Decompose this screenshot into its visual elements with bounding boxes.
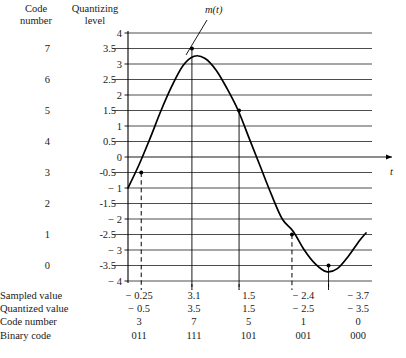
table-spacer [386, 329, 406, 342]
table-cell: 3.5 [167, 302, 222, 315]
table-cell: 000 [331, 329, 386, 342]
table: Sampled value− 0.253.11.5− 2.4− 3.7Quant… [0, 289, 406, 342]
table-cell: 3.1 [167, 289, 222, 302]
gridlines [112, 33, 392, 281]
y-axis-tick-label: 3 [117, 59, 122, 70]
y-axis-tick-label: 4 [117, 28, 123, 39]
table-spacer [386, 302, 406, 315]
table-cell: 111 [167, 329, 222, 342]
table-cell: 011 [112, 329, 167, 342]
table-row: Quantized value− 0.53.51.5− 2.5− 3.5 [0, 302, 406, 315]
sample-point [290, 233, 294, 237]
table-spacer [386, 315, 406, 328]
table-row-label: Quantized value [0, 302, 112, 315]
sample-point [327, 264, 331, 268]
table-cell: 5 [221, 315, 276, 328]
y-axis-tick-label: 1 [117, 121, 122, 132]
time-axis-label: t [390, 166, 393, 177]
y-axis-tick-label: − 1 [108, 183, 122, 194]
sample-point [139, 171, 143, 175]
table-cell: − 2.5 [276, 302, 331, 315]
table-row: Code number37510 [0, 315, 406, 328]
curve-label-pointer [186, 20, 207, 55]
table-cell: 3 [112, 315, 167, 328]
sample-lines [141, 49, 328, 291]
figure-container: Code number Quantizing level 73.562.551.… [0, 0, 406, 358]
table-cell: 1.5 [221, 302, 276, 315]
table-cell: − 0.5 [112, 302, 167, 315]
y-axis-tick-label: 0 [117, 152, 122, 163]
table-cell: 1 [276, 315, 331, 328]
y-axis-tick-label: 2 [117, 90, 122, 101]
table-row: Sampled value− 0.253.11.5− 2.4− 3.7 [0, 289, 406, 302]
table-row-label: Binary code [0, 329, 112, 342]
table-cell: 7 [167, 315, 222, 328]
table-cell: − 2.4 [276, 289, 331, 302]
table-cell: − 3.7 [331, 289, 386, 302]
y-axis: 43210− 1− 2− 3− 4 [108, 28, 128, 287]
sample-point [237, 109, 241, 113]
y-axis-tick-label: − 4 [108, 276, 123, 287]
table-cell: 101 [221, 329, 276, 342]
y-axis-tick-label: − 3 [108, 245, 122, 256]
table-cell: 0 [331, 315, 386, 328]
table-cell: − 0.25 [112, 289, 167, 302]
table-cell: 001 [276, 329, 331, 342]
table-row-label: Code number [0, 315, 112, 328]
signal-label: m(t) [205, 4, 223, 15]
quantization-plot: 43210− 1− 2− 3− 4 [0, 0, 406, 300]
sample-value-table: Sampled value− 0.253.11.5− 2.4− 3.7Quant… [0, 289, 406, 342]
y-axis-tick-label: − 2 [108, 214, 122, 225]
table-row: Binary code011111101001000 [0, 329, 406, 342]
signal-curve [128, 56, 366, 272]
table-spacer [386, 289, 406, 302]
table-cell: 1.5 [221, 289, 276, 302]
table-cell: − 3.5 [331, 302, 386, 315]
table-row-label: Sampled value [0, 289, 112, 302]
